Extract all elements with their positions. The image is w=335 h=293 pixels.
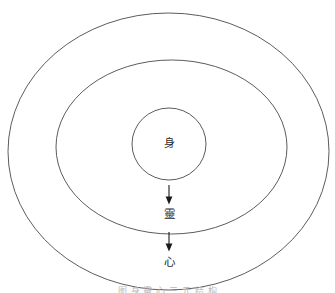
diagram-canvas: 身 靈 心 图 身 靈 心 三 元 结 构: [0, 0, 335, 293]
arrow-ling-to-xin: [166, 232, 173, 252]
arrow-shen-to-ling-head: [166, 197, 173, 205]
label-ling: 靈: [164, 207, 175, 221]
concentric-ellipse-diagram: 身 靈 心: [0, 0, 335, 293]
label-shen: 身: [164, 136, 175, 150]
arrow-ling-to-xin-head: [166, 244, 173, 252]
arrow-shen-to-ling: [166, 185, 173, 205]
label-xin: 心: [164, 255, 176, 269]
